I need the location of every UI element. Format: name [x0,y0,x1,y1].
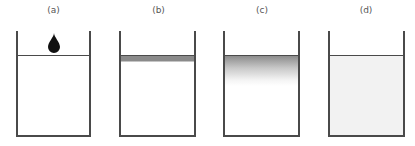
panel-label-d: (d) [314,5,415,15]
water-c [225,55,298,135]
panel-label-c: (c) [210,5,314,15]
water-d [330,55,403,135]
water-b [121,55,194,135]
beaker-b [119,31,196,137]
beaker-c [223,31,300,137]
water-a [18,55,89,135]
ink-drop-icon [47,33,61,55]
beaker-d [328,31,405,137]
panel-label-a: (a) [0,5,107,15]
panel-label-b: (b) [107,5,210,15]
beaker-a [16,31,91,137]
